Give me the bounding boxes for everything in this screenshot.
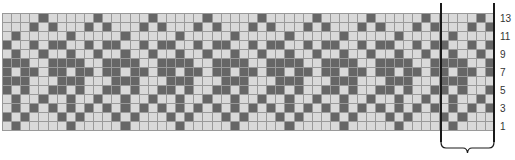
chart-cell xyxy=(431,68,440,77)
chart-cell xyxy=(258,77,267,86)
chart-cell xyxy=(276,77,285,86)
chart-cell xyxy=(404,50,413,59)
chart-cell xyxy=(468,23,477,32)
chart-cell xyxy=(103,77,112,86)
chart-cell xyxy=(103,32,112,41)
chart-cell xyxy=(249,113,258,122)
chart-cell xyxy=(194,86,203,95)
chart-cell xyxy=(349,95,358,104)
chart-cell xyxy=(258,104,267,113)
chart-cell xyxy=(49,23,58,32)
chart-cell xyxy=(149,104,158,113)
chart-cell xyxy=(477,95,486,104)
chart-cell xyxy=(112,23,121,32)
chart-cell xyxy=(313,95,322,104)
chart-cell xyxy=(39,95,48,104)
chart-cell xyxy=(431,122,440,131)
chart-cell xyxy=(285,122,294,131)
chart-cell xyxy=(85,59,94,68)
chart-cell xyxy=(449,104,458,113)
chart-cell xyxy=(285,23,294,32)
chart-cell xyxy=(39,14,48,23)
chart-cell xyxy=(322,59,331,68)
chart-cell xyxy=(349,59,358,68)
chart-cell xyxy=(376,59,385,68)
chart-cell xyxy=(140,59,149,68)
chart-cell xyxy=(313,32,322,41)
chart-cell xyxy=(185,41,194,50)
chart-cell xyxy=(131,50,140,59)
chart-cell xyxy=(267,77,276,86)
chart-cell xyxy=(21,68,30,77)
chart-cell xyxy=(30,68,39,77)
chart-cell xyxy=(185,59,194,68)
chart-cell xyxy=(49,104,58,113)
chart-cell xyxy=(267,86,276,95)
chart-cell xyxy=(167,59,176,68)
chart-cell xyxy=(231,77,240,86)
chart-cell xyxy=(94,14,103,23)
chart-cell xyxy=(468,113,477,122)
chart-cell xyxy=(112,32,121,41)
chart-cell xyxy=(295,50,304,59)
chart-cell xyxy=(121,32,130,41)
chart-cell xyxy=(358,104,367,113)
chart-cell xyxy=(449,68,458,77)
chart-cell xyxy=(358,14,367,23)
chart-cell xyxy=(376,104,385,113)
chart-cell xyxy=(322,23,331,32)
chart-cell xyxy=(458,86,467,95)
chart-cell xyxy=(103,41,112,50)
chart-cell xyxy=(167,23,176,32)
chart-cell xyxy=(395,122,404,131)
chart-cell xyxy=(131,41,140,50)
chart-cell xyxy=(458,113,467,122)
chart-cell xyxy=(231,86,240,95)
chart-cell xyxy=(386,14,395,23)
chart-cell xyxy=(39,68,48,77)
chart-cell xyxy=(176,95,185,104)
chart-cell xyxy=(458,68,467,77)
chart-cell xyxy=(422,68,431,77)
chart-cell xyxy=(30,113,39,122)
chart-cell xyxy=(304,32,313,41)
chart-cell xyxy=(3,41,12,50)
chart-cell xyxy=(140,14,149,23)
chart-cell xyxy=(340,50,349,59)
chart-cell xyxy=(76,32,85,41)
chart-cell xyxy=(285,86,294,95)
chart-cell xyxy=(131,23,140,32)
chart-cell xyxy=(67,68,76,77)
chart-cell xyxy=(3,68,12,77)
chart-cell xyxy=(340,41,349,50)
chart-cell xyxy=(285,95,294,104)
chart-cell xyxy=(158,86,167,95)
chart-cell xyxy=(103,104,112,113)
chart-cell xyxy=(304,41,313,50)
chart-cell xyxy=(422,41,431,50)
chart-cell xyxy=(295,77,304,86)
chart-cell xyxy=(431,50,440,59)
chart-cell xyxy=(358,23,367,32)
chart-cell xyxy=(58,77,67,86)
chart-cell xyxy=(167,95,176,104)
chart-cell xyxy=(194,23,203,32)
chart-cell xyxy=(304,59,313,68)
chart-cell xyxy=(30,50,39,59)
row-label-3: 3 xyxy=(500,104,506,114)
chart-cell xyxy=(39,77,48,86)
chart-cell xyxy=(349,104,358,113)
chart-cell xyxy=(176,59,185,68)
chart-cell xyxy=(176,86,185,95)
chart-cell xyxy=(422,50,431,59)
chart-cell xyxy=(386,113,395,122)
chart-cell xyxy=(39,122,48,131)
chart-cell xyxy=(422,104,431,113)
chart-cell xyxy=(149,68,158,77)
chart-cell xyxy=(304,50,313,59)
chart-cell xyxy=(413,122,422,131)
chart-cell xyxy=(222,95,231,104)
chart-cell xyxy=(304,14,313,23)
chart-cell xyxy=(468,122,477,131)
chart-cell xyxy=(58,104,67,113)
